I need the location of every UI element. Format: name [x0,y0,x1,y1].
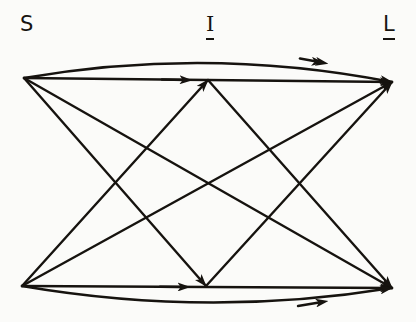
edge-horizontal-top-mid-arrowhead [162,80,186,81]
column-label-s: S [20,14,33,35]
diagram-canvas: S I L [0,0,416,322]
column-label-i: I [206,14,214,40]
edge-s-top-to-l-top-arc-midarrow [24,58,318,78]
edge-arc-top-mid-arrowhead [300,59,322,63]
edge-arc-bottom-mid-arrowhead [298,302,322,306]
graph-drawing [0,0,416,322]
column-label-l: L [383,14,395,40]
